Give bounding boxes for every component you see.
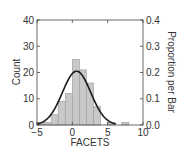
svg-text:0.1: 0.1 — [146, 93, 160, 104]
svg-text:40: 40 — [23, 15, 35, 26]
histogram-bar — [58, 101, 65, 125]
histogram-bar — [51, 115, 58, 126]
histogram-bar — [79, 70, 86, 125]
svg-text:0.0: 0.0 — [146, 120, 160, 131]
histogram-chart: −50510 010203040 0.00.10.20.30.4 FACETS … — [0, 0, 185, 151]
svg-text:0.3: 0.3 — [146, 41, 160, 52]
right-axis-label: Proportion per Bar — [166, 31, 177, 113]
svg-text:0: 0 — [28, 120, 34, 131]
y-axis-label: Count — [11, 58, 22, 85]
histogram-bar — [65, 94, 72, 126]
svg-text:20: 20 — [23, 67, 35, 78]
histogram-bar — [72, 59, 79, 125]
svg-text:30: 30 — [23, 41, 35, 52]
svg-text:10: 10 — [23, 93, 35, 104]
svg-text:0.2: 0.2 — [146, 67, 160, 78]
x-axis-label: FACETS — [71, 137, 110, 148]
y-axis-ticks: 010203040 — [23, 15, 40, 131]
svg-text:0.4: 0.4 — [146, 15, 160, 26]
